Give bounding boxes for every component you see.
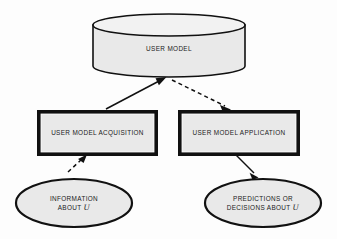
edge-user-model-to-application (172, 80, 231, 112)
node-user-model-acquisition[interactable]: USER MODEL ACQUISITION (37, 110, 158, 156)
node-information-about-user[interactable]: INFORMATION ABOUT U (16, 179, 132, 227)
user-modeling-diagram: USER MODEL USER MODEL ACQUISITION USER M… (0, 0, 337, 239)
predictions-label-line2: DECISIONS ABOUT U (227, 203, 300, 212)
user-symbol-icon: U (84, 203, 91, 212)
diagram-canvas: USER MODEL USER MODEL ACQUISITION USER M… (0, 0, 337, 239)
acquisition-label: USER MODEL ACQUISITION (51, 129, 144, 137)
node-predictions-about-user[interactable]: PREDICTIONS OR DECISIONS ABOUT U (205, 179, 321, 227)
predictions-label-line1: PREDICTIONS OR (233, 195, 293, 202)
information-label-line2: ABOUT U (58, 203, 91, 212)
information-label-line2-prefix: ABOUT (58, 204, 84, 211)
predictions-label-line2-prefix: DECISIONS ABOUT (227, 204, 293, 211)
application-label: USER MODEL APPLICATION (193, 129, 286, 136)
edge-application-to-predictions (236, 155, 259, 180)
edge-acquisition-to-user-model (106, 77, 167, 109)
user-symbol-icon: U (293, 203, 300, 212)
edge-information-to-acquisition (68, 155, 87, 173)
node-user-model-application[interactable]: USER MODEL APPLICATION (178, 110, 300, 156)
node-user-model[interactable]: USER MODEL (93, 14, 245, 77)
user-model-label: USER MODEL (146, 45, 192, 52)
information-label-line1: INFORMATION (50, 195, 98, 202)
